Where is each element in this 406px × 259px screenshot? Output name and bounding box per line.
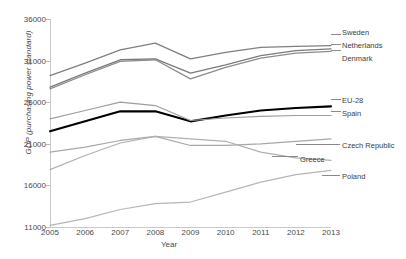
series-label-poland: Poland xyxy=(342,172,365,181)
leader-line-3 xyxy=(331,99,341,100)
leader-line-2 xyxy=(331,50,341,51)
y-tickmark-21000 xyxy=(46,144,50,145)
y-tickmark-11000 xyxy=(46,227,50,228)
series-line-spain xyxy=(50,102,331,120)
leader-line-5 xyxy=(296,144,340,145)
series-line-poland xyxy=(50,170,331,225)
plot-lines xyxy=(0,0,406,259)
leader-line-7 xyxy=(322,175,340,176)
leader-line-4 xyxy=(331,111,341,112)
series-label-denmark: Denmark xyxy=(342,54,372,63)
series-line-eu-28 xyxy=(50,106,331,131)
y-tickmark-26000 xyxy=(46,102,50,103)
leader-line-0 xyxy=(331,34,341,35)
y-tickmark-36000 xyxy=(46,19,50,20)
y-tickmark-31000 xyxy=(46,61,50,62)
series-label-eu-28: EU-28 xyxy=(342,96,363,105)
line-chart: GDP (purchasing power standard) 11000160… xyxy=(0,0,406,259)
series-label-sweden: Sweden xyxy=(342,28,369,37)
y-tickmark-16000 xyxy=(46,185,50,186)
leader-line-1 xyxy=(331,44,341,45)
series-label-netherlands: Netherlands xyxy=(342,41,382,50)
leader-line-6 xyxy=(272,156,298,157)
series-label-spain: Spain xyxy=(342,109,361,118)
series-label-greece: Greece xyxy=(300,155,325,164)
series-label-czech-republic: Czech Republic xyxy=(342,141,395,150)
